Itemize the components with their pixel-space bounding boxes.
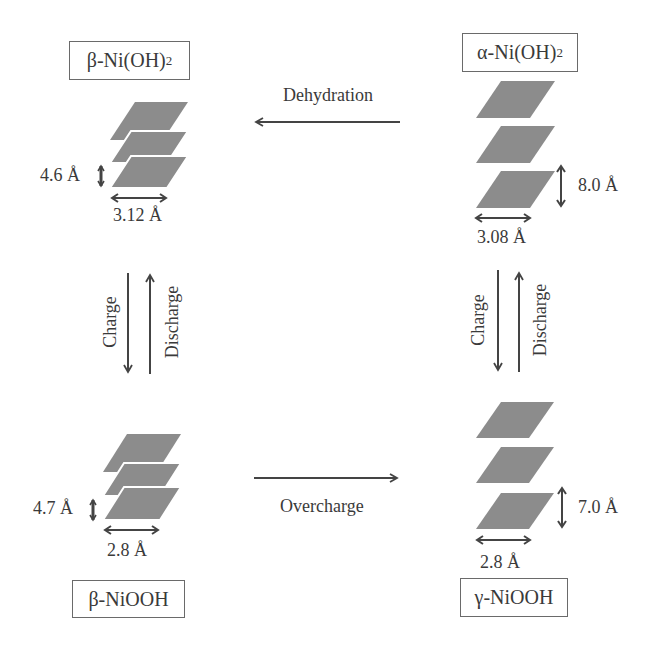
beta-nioh2-layer-stack	[110, 102, 188, 188]
gamma-niooh-interlayer-label: 7.0 Å	[578, 497, 618, 518]
alpha-nioh2-label: α-Ni(OH)2	[462, 33, 578, 72]
right-charge-label: Charge	[468, 294, 489, 346]
beta-niooh-inplane-label: 2.8 Å	[107, 540, 147, 561]
alpha-nioh2-inplane-label: 3.08 Å	[477, 227, 526, 248]
dehydration-label: Dehydration	[283, 85, 373, 106]
gamma-niooh-layer-stack	[476, 402, 554, 529]
gamma-niooh-label: γ-NiOOH	[460, 578, 568, 617]
beta-niooh-layer-stack	[103, 434, 181, 520]
gamma-niooh-inplane-label: 2.8 Å	[480, 552, 520, 573]
right-discharge-label: Discharge	[530, 284, 551, 357]
beta-niooh-label: β-NiOOH	[72, 580, 185, 618]
overcharge-label: Overcharge	[280, 496, 364, 517]
beta-niooh-interlayer-label: 4.7 Å	[33, 498, 73, 519]
beta-niooh-formula: β-NiOOH	[88, 588, 168, 611]
nickel-hydroxide-phase-diagram: β-Ni(OH)2 α-Ni(OH)2 β-NiOOH γ-NiOOH 4.6 …	[0, 0, 660, 648]
left-charge-label: Charge	[100, 296, 121, 348]
beta-nioh2-formula: β-Ni(OH)	[87, 49, 166, 72]
beta-nioh2-interlayer-label: 4.6 Å	[40, 165, 80, 186]
beta-nioh2-label: β-Ni(OH)2	[69, 41, 190, 80]
gamma-niooh-formula: γ-NiOOH	[475, 586, 554, 609]
alpha-nioh2-layer-stack	[476, 81, 555, 208]
left-discharge-label: Discharge	[162, 286, 183, 359]
alpha-nioh2-formula: α-Ni(OH)	[477, 41, 556, 64]
alpha-nioh2-interlayer-label: 8.0 Å	[578, 175, 618, 196]
beta-nioh2-inplane-label: 3.12 Å	[113, 205, 162, 226]
